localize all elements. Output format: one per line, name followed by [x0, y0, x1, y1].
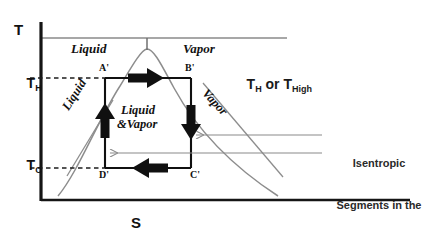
callout-line-1: Isentropic	[329, 156, 429, 170]
annotation-th-prefix: T	[247, 76, 256, 92]
flow-arrow-top	[128, 68, 164, 88]
state-point-label-d-prime: D'	[99, 170, 109, 181]
t-cold-subscript: C	[35, 165, 42, 175]
t-high-base: T	[27, 75, 36, 91]
region-label-vapor-top: Vapor	[183, 42, 215, 56]
x-axis-label: S	[131, 215, 141, 231]
t-cold-base: T	[27, 157, 36, 173]
carnot-cycle-ts-diagram: T S TH TC Liquid Vapor Liquid Vapor Liqu…	[0, 0, 432, 239]
annotation-th-sub2: High	[292, 84, 312, 94]
state-point-label-b-prime: B'	[185, 63, 194, 74]
tick-label-t-cold: TC	[11, 143, 42, 187]
flow-arrow-left	[95, 103, 115, 138]
t-high-subscript: H	[35, 83, 42, 93]
flow-arrow-bottom	[132, 158, 168, 178]
annotation-th-middle: or T	[262, 76, 292, 92]
annotation-th-sub1: H	[255, 84, 262, 94]
region-label-two-phase-line1: Liquid	[121, 104, 155, 117]
state-point-label-a-prime: A'	[99, 63, 109, 74]
state-point-label-c-prime: C'	[190, 170, 200, 181]
isentropic-callout: Isentropic Segments in the Carnot Cycle	[329, 128, 429, 239]
annotation-t-high-or-t-high-full: TH or THigh	[231, 62, 312, 106]
callout-line-2: Segments in the	[329, 198, 429, 212]
region-label-liquid-top: Liquid	[71, 42, 106, 56]
region-label-two-phase-line2: &Vapor	[117, 118, 157, 131]
y-axis-label: T	[14, 22, 23, 38]
tick-label-t-high: TH	[11, 61, 42, 105]
